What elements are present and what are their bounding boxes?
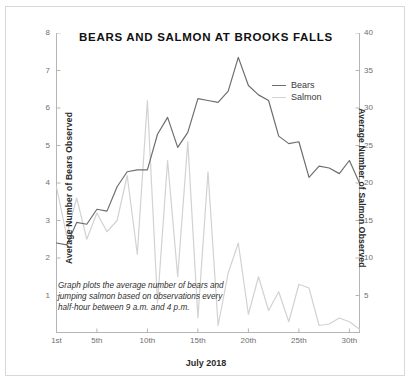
- y-axis-right-tick-label: 20: [364, 178, 388, 187]
- legend-item-bears: Bears: [272, 79, 322, 91]
- y-axis-right-tick-label: 35: [364, 66, 388, 75]
- y-axis-left-ticks: [57, 33, 61, 296]
- x-axis-tick-label: 30th: [334, 336, 364, 345]
- chart-annotation: Graph plots the average number of bears …: [58, 281, 233, 313]
- y-axis-right-tick-label: 25: [364, 141, 388, 150]
- y-axis-left-tick-label: 4: [28, 178, 50, 187]
- y-axis-left-tick-label: 8: [28, 28, 50, 37]
- x-axis-ticks: [57, 329, 350, 333]
- x-axis-tick-label: 1st: [42, 336, 72, 345]
- y-axis-right-tick-label: 15: [364, 216, 388, 225]
- chart-legend: Bears Salmon: [272, 79, 322, 103]
- y-axis-right-tick-label: 10: [364, 253, 388, 262]
- x-axis-tick-label: 20th: [233, 336, 263, 345]
- y-axis-left-tick-label: 5: [28, 141, 50, 150]
- y-axis-left-title: Average Number of Bears Observed: [64, 78, 74, 298]
- legend-item-salmon: Salmon: [272, 91, 322, 103]
- y-axis-right-tick-label: 5: [364, 291, 388, 300]
- x-axis-title: July 2018: [0, 358, 412, 368]
- legend-label-bears: Bears: [291, 80, 315, 90]
- y-axis-left-tick-label: 7: [28, 66, 50, 75]
- y-axis-left-tick-label: 6: [28, 103, 50, 112]
- legend-swatch-bears: [272, 85, 286, 86]
- y-axis-right-tick-label: 30: [364, 103, 388, 112]
- y-axis-left-tick-label: 2: [28, 253, 50, 262]
- legend-label-salmon: Salmon: [291, 92, 322, 102]
- chart-figure: BEARS AND SALMON AT BROOKS FALLS Average…: [0, 0, 412, 383]
- y-axis-left-tick-label: 3: [28, 216, 50, 225]
- x-axis-tick-label: 15th: [183, 336, 213, 345]
- y-axis-left-tick-label: 1: [28, 291, 50, 300]
- x-axis-tick-label: 10th: [132, 336, 162, 345]
- y-axis-right-tick-label: 40: [364, 28, 388, 37]
- legend-swatch-salmon: [272, 97, 286, 98]
- x-axis-tick-label: 25th: [284, 336, 314, 345]
- x-axis-tick-label: 5th: [82, 336, 112, 345]
